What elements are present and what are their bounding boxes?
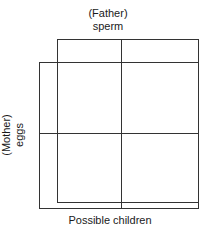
- father-label: (Father) sperm: [0, 7, 216, 33]
- mother-label-line2: eggs: [13, 114, 26, 156]
- mother-label-line1: (Mother): [0, 114, 13, 156]
- punnett-square-figure: (Father) sperm (Mother) eggs Possible ch…: [0, 0, 216, 237]
- punnett-grid: [0, 0, 216, 237]
- mother-rectangle: [40, 63, 199, 209]
- possible-children-label: Possible children: [20, 214, 200, 227]
- father-label-line1: (Father): [0, 7, 216, 20]
- mother-label: (Mother) eggs: [0, 90, 26, 180]
- father-rectangle: [58, 40, 199, 203]
- mother-label-rotated: (Mother) eggs: [0, 114, 26, 156]
- father-label-line2: sperm: [0, 20, 216, 33]
